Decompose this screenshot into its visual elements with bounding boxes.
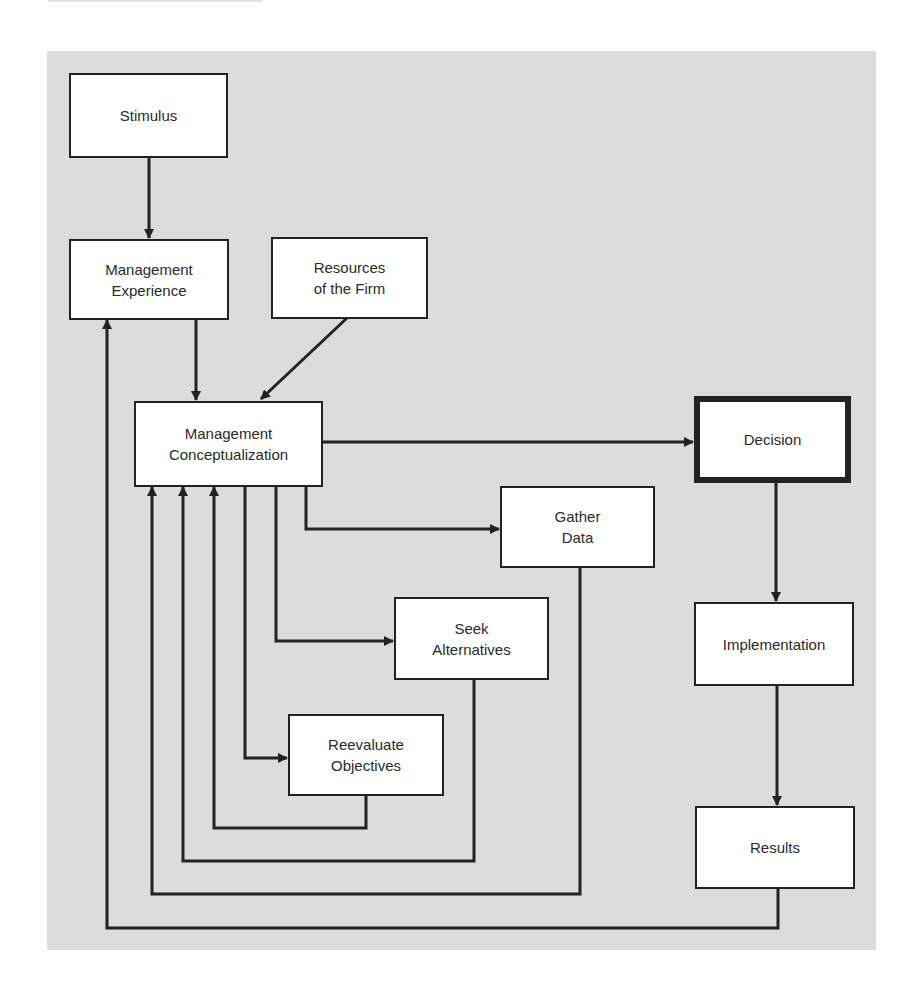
node-label: Implementation (723, 634, 826, 655)
node-label-line1: Management (105, 259, 193, 280)
node-label-line1: Reevaluate (328, 734, 404, 755)
node-gather-data: Gather Data (500, 486, 655, 568)
node-label-line1: Gather (555, 506, 601, 527)
node-label-line1: Management (169, 423, 288, 444)
node-stimulus: Stimulus (69, 73, 228, 158)
node-seek-alternatives: Seek Alternatives (394, 597, 549, 680)
node-label-line2: Conceptualization (169, 444, 288, 465)
node-reevaluate-objectives: Reevaluate Objectives (288, 714, 444, 796)
node-label-line2: Experience (105, 280, 193, 301)
node-decision: Decision (694, 396, 851, 483)
node-label: Stimulus (120, 105, 178, 126)
edge-resources-conceptualization (261, 318, 347, 399)
edge-conceptualization-gather (306, 486, 499, 529)
node-management-experience: Management Experience (69, 239, 229, 320)
edge-conceptualization-reevaluate (245, 486, 287, 758)
edge-conceptualization-seek (276, 486, 393, 641)
node-results: Results (695, 806, 855, 889)
node-label-line2: Data (555, 527, 601, 548)
node-label-line1: Resources (314, 257, 386, 278)
node-label-line2: Alternatives (432, 639, 510, 660)
node-label-line2: Objectives (328, 755, 404, 776)
node-label-line1: Seek (432, 618, 510, 639)
node-resources-of-the-firm: Resources of the Firm (271, 237, 428, 319)
node-implementation: Implementation (694, 602, 854, 686)
node-management-conceptualization: Management Conceptualization (134, 401, 323, 487)
node-label: Decision (744, 429, 802, 450)
node-label: Results (750, 837, 800, 858)
node-label-line2: of the Firm (314, 278, 386, 299)
